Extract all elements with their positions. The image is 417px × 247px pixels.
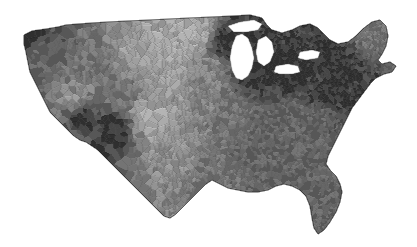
county-region bbox=[285, 173, 287, 175]
county-region bbox=[322, 150, 323, 152]
county-region bbox=[323, 74, 324, 76]
county-region bbox=[307, 91, 309, 94]
county-region bbox=[323, 114, 325, 116]
county-region bbox=[318, 149, 320, 152]
county-region bbox=[303, 38, 305, 43]
county-region bbox=[280, 34, 283, 36]
county-region bbox=[366, 60, 368, 62]
county-region bbox=[370, 55, 372, 56]
county-region bbox=[280, 74, 282, 77]
county-region bbox=[297, 159, 302, 160]
county-region bbox=[310, 190, 313, 192]
county-region bbox=[356, 63, 357, 65]
county-region bbox=[330, 48, 337, 50]
county-region bbox=[335, 135, 338, 141]
county-region bbox=[377, 45, 378, 47]
county-region bbox=[315, 173, 320, 176]
county-region bbox=[303, 134, 304, 137]
county-region bbox=[261, 181, 264, 183]
county-region bbox=[246, 187, 248, 190]
county-region bbox=[87, 53, 93, 61]
county-region bbox=[302, 133, 303, 135]
county-region bbox=[320, 109, 321, 111]
county-region bbox=[291, 143, 294, 145]
county-region bbox=[307, 89, 309, 91]
county-region bbox=[363, 65, 364, 67]
county-region bbox=[304, 91, 307, 93]
county-region bbox=[336, 124, 337, 126]
county-region bbox=[60, 40, 62, 43]
county-region bbox=[301, 119, 303, 122]
county-region bbox=[269, 118, 271, 120]
county-region bbox=[308, 63, 310, 65]
county-region bbox=[233, 172, 234, 174]
county-region bbox=[366, 58, 367, 59]
county-region bbox=[332, 66, 334, 69]
county-region bbox=[369, 33, 370, 36]
county-region bbox=[287, 119, 288, 123]
county-region bbox=[271, 118, 273, 120]
county-region bbox=[186, 111, 189, 112]
county-region bbox=[259, 176, 261, 178]
county-region bbox=[274, 126, 276, 128]
county-region bbox=[257, 143, 258, 149]
county-region bbox=[268, 115, 272, 118]
county-region bbox=[381, 37, 383, 39]
county-region bbox=[301, 46, 303, 48]
us-county-choropleth-svg bbox=[0, 0, 417, 247]
county-region bbox=[297, 95, 298, 96]
county-region bbox=[165, 154, 168, 155]
county-region bbox=[255, 104, 259, 106]
choropleth-map-figure bbox=[0, 0, 417, 247]
county-region bbox=[381, 39, 383, 40]
county-region bbox=[219, 47, 220, 48]
county-region bbox=[313, 173, 315, 176]
county-region bbox=[349, 48, 352, 54]
county-region bbox=[348, 63, 351, 64]
county-region bbox=[47, 34, 49, 37]
county-region bbox=[360, 61, 363, 64]
county-region bbox=[380, 70, 382, 73]
county-region bbox=[380, 40, 382, 41]
county-region bbox=[184, 138, 186, 141]
county-region bbox=[320, 193, 321, 196]
county-region bbox=[265, 73, 266, 76]
county-region bbox=[284, 104, 285, 106]
county-region bbox=[249, 31, 254, 35]
county-region bbox=[163, 184, 164, 186]
county-region bbox=[352, 83, 354, 86]
county-region bbox=[249, 90, 251, 92]
county-region bbox=[191, 102, 195, 107]
county-region bbox=[379, 47, 380, 48]
county-region bbox=[306, 174, 309, 177]
county-region bbox=[279, 127, 281, 130]
county-region bbox=[316, 104, 317, 106]
county-region bbox=[297, 44, 299, 47]
county-region bbox=[296, 34, 297, 36]
county-region bbox=[324, 108, 326, 109]
county-region bbox=[168, 112, 176, 120]
county-region bbox=[378, 66, 381, 68]
county-region bbox=[344, 52, 346, 55]
county-region bbox=[373, 51, 375, 53]
county-region bbox=[347, 64, 350, 65]
county-region bbox=[301, 48, 303, 50]
county-region bbox=[296, 95, 297, 96]
county-region bbox=[295, 133, 296, 140]
county-region bbox=[356, 62, 357, 63]
county-region bbox=[259, 130, 261, 135]
county-region bbox=[365, 62, 367, 65]
county-region bbox=[363, 62, 365, 65]
county-region bbox=[360, 64, 363, 66]
county-region bbox=[273, 128, 275, 129]
county-region bbox=[275, 113, 279, 114]
county-region bbox=[302, 43, 304, 46]
county-region bbox=[365, 73, 367, 75]
county-region bbox=[360, 66, 363, 67]
county-region bbox=[321, 106, 323, 109]
county-region bbox=[332, 50, 337, 51]
county-region bbox=[30, 71, 37, 79]
county-region bbox=[374, 35, 375, 39]
county-region bbox=[311, 35, 313, 36]
county-region bbox=[286, 120, 287, 123]
